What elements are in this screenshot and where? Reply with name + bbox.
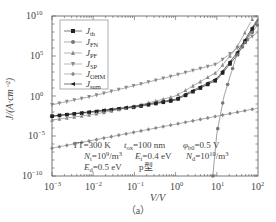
x-tick-label: 10−3 (44, 180, 61, 192)
annotation-nd: Nd=1010/m3 (185, 150, 229, 162)
y-tick-labels: 1010 105 100 10−5 10−10 (22, 9, 45, 181)
y-tick-label: 10−5 (28, 129, 45, 141)
x-tick-label: 10−1 (127, 180, 144, 192)
x-tick-labels: 10−3 10−2 10−1 100 101 102 (44, 180, 264, 192)
x-tick-label: 102 (251, 180, 264, 192)
x-tick-label: 101 (211, 180, 224, 192)
y-axis-label: J/(A·cm⁻²) (4, 77, 16, 120)
parameter-annotations: TT=300 K tox=100 nm φb0=0.5 V Nt=109/m3 … (73, 140, 229, 173)
legend: Jth JFN JPF JSP JOHM Jsum (60, 20, 108, 90)
y-tick-label: 100 (30, 90, 43, 102)
annotation-tox: tox=100 nm (124, 140, 165, 151)
x-tick-label: 10−2 (85, 180, 102, 192)
figure-caption: （a） (0, 202, 276, 217)
y-tick-label: 1010 (26, 9, 43, 21)
y-tick-label: 105 (30, 49, 43, 61)
annotation-temperature: TT=300 K (73, 140, 111, 150)
x-tick-label: 100 (170, 180, 183, 192)
chart-figure: 1010 105 100 10−5 10−10 10−3 10−2 10−1 1… (0, 0, 276, 222)
annotation-et: Et=0.4 eV (134, 151, 172, 162)
y-tick-label: 10−10 (22, 169, 42, 181)
annotation-ed: Ed=0.5 eV (83, 162, 122, 173)
annotation-ptype: p型 (139, 162, 153, 172)
annotation-nt: Nt=109/m3 (83, 150, 122, 162)
